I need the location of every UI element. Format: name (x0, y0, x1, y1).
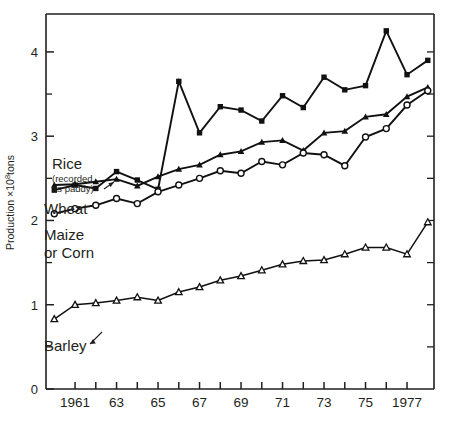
data-point (114, 196, 120, 202)
right-axis-ticks (427, 52, 434, 347)
data-point (321, 75, 326, 80)
x-tick-label: 75 (358, 395, 373, 410)
x-tick-label: 65 (151, 395, 166, 410)
data-point (383, 244, 390, 250)
data-point (342, 163, 348, 169)
data-point (134, 201, 140, 207)
data-point (362, 244, 369, 250)
data-point (176, 79, 181, 84)
series-annotations: Rice (recorded as paddy) Wheat Maize or … (44, 155, 114, 354)
y-tick-label: 4 (31, 45, 38, 60)
data-point (238, 107, 243, 112)
data-point (93, 186, 98, 191)
data-point (176, 182, 182, 188)
data-point (197, 175, 203, 181)
data-point (363, 134, 369, 140)
rice-sublabel-line2: as paddy) (52, 183, 94, 194)
rice-label: Rice (52, 155, 82, 172)
data-point (134, 294, 141, 300)
data-point (321, 152, 327, 158)
x-tick-label: 73 (317, 395, 332, 410)
data-point (113, 297, 120, 303)
data-point (238, 170, 244, 176)
data-point (279, 261, 286, 267)
y-axis-title: Production ×108tons (3, 155, 16, 250)
data-point (280, 93, 285, 98)
data-point (342, 87, 347, 92)
data-point (238, 273, 245, 279)
x-axis-ticks (75, 382, 407, 389)
data-point (217, 277, 224, 283)
data-point (92, 300, 99, 306)
maize-label-line2: or Corn (44, 244, 94, 261)
y-axis-title-text: Production ×108tons (3, 155, 16, 250)
series-layer (51, 28, 431, 322)
data-point (383, 126, 389, 132)
data-point (218, 104, 223, 109)
x-tick-label: 71 (275, 395, 290, 410)
data-point (258, 267, 265, 273)
data-point (197, 130, 202, 135)
data-point (301, 105, 306, 110)
chart-page: 01234 1961636567697173751977 Production … (0, 0, 450, 430)
data-point (404, 72, 409, 77)
y-tick-label: 1 (31, 298, 38, 313)
data-point (114, 169, 119, 174)
series-barley (51, 219, 431, 322)
data-point (321, 257, 328, 263)
data-point (280, 162, 286, 168)
data-point (155, 189, 161, 195)
x-tick-label: 67 (192, 395, 207, 410)
x-tick-label: 69 (234, 395, 249, 410)
data-point (424, 219, 431, 225)
data-point (259, 118, 264, 123)
data-point (217, 168, 223, 174)
y-axis-title-pre: Production ×10 (4, 179, 16, 250)
data-point (175, 289, 182, 295)
data-point (259, 158, 265, 164)
data-point (155, 297, 162, 303)
barley-label: Barley (44, 337, 87, 354)
y-tick-label: 0 (31, 382, 38, 397)
data-point (425, 58, 430, 63)
x-tick-label: 63 (109, 395, 124, 410)
series-wheat (52, 28, 431, 193)
data-point (300, 258, 307, 264)
data-point (300, 150, 306, 156)
x-tick-label: 1977 (392, 395, 422, 410)
data-point (425, 88, 431, 94)
x-axis-labels: 1961636567697173751977 (60, 395, 422, 410)
y-tick-label: 3 (31, 129, 38, 144)
y-axis-title-post: tons (4, 155, 16, 175)
wheat-label: Wheat (44, 200, 88, 217)
data-point (384, 28, 389, 33)
maize-label-line1: Maize (44, 226, 84, 243)
data-point (72, 301, 79, 307)
production-line-chart: 01234 1961636567697173751977 Production … (0, 0, 450, 430)
series-path (54, 222, 427, 319)
data-point (404, 102, 410, 108)
rice-leader-arrow (108, 182, 114, 187)
data-point (135, 177, 140, 182)
data-point (363, 83, 368, 88)
data-point (196, 284, 203, 290)
data-point (93, 202, 99, 208)
data-point (341, 251, 348, 257)
y-tick-label: 2 (31, 213, 38, 228)
x-tick-label: 1961 (60, 395, 90, 410)
plot-frame (46, 14, 434, 389)
